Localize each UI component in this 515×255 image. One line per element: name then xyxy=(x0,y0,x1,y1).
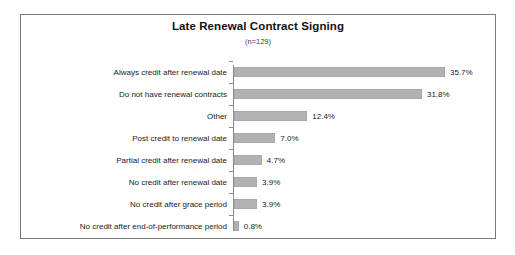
bar-value-label: 0.8% xyxy=(244,222,262,231)
bar-value-label: 3.9% xyxy=(262,178,280,187)
category-label: No credit after renewal date xyxy=(129,178,227,187)
axis-tick xyxy=(229,171,233,172)
bar-row: Partial credit after renewal date4.7% xyxy=(21,149,497,171)
bar-value-label: 31.8% xyxy=(427,90,450,99)
category-label: Always credit after renewal date xyxy=(114,68,227,77)
bar-value-label: 35.7% xyxy=(450,68,473,77)
bar-row: Post credit to renewal date7.0% xyxy=(21,127,497,149)
category-label: Other xyxy=(207,112,227,121)
axis-tick xyxy=(229,149,233,150)
axis-tick xyxy=(229,83,233,84)
bar xyxy=(234,177,257,187)
category-label: No credit after grace period xyxy=(130,200,227,209)
bar xyxy=(234,199,257,209)
category-label: Post credit to renewal date xyxy=(132,134,227,143)
axis-tick xyxy=(229,105,233,106)
bar-value-label: 3.9% xyxy=(262,200,280,209)
category-label: Do not have renewal contracts xyxy=(119,90,227,99)
bar xyxy=(234,111,307,121)
bar xyxy=(234,133,275,143)
bar xyxy=(234,155,262,165)
bar-value-label: 12.4% xyxy=(312,112,335,121)
bar-row: No credit after renewal date3.9% xyxy=(21,171,497,193)
bar-row: No credit after grace period3.9% xyxy=(21,193,497,215)
bar-row: Other12.4% xyxy=(21,105,497,127)
axis-tick xyxy=(229,61,233,62)
bar xyxy=(234,67,445,77)
bar-row: Always credit after renewal date35.7% xyxy=(21,61,497,83)
axis-tick xyxy=(229,215,233,216)
bar-value-label: 4.7% xyxy=(267,156,285,165)
plot-area: Always credit after renewal date35.7%Do … xyxy=(21,59,497,235)
category-label: Partial credit after renewal date xyxy=(116,156,227,165)
category-label: No credit after end-of-performance perio… xyxy=(80,222,227,231)
bar-value-label: 7.0% xyxy=(280,134,298,143)
axis-tick xyxy=(229,193,233,194)
bar-row: Do not have renewal contracts31.8% xyxy=(21,83,497,105)
chart-frame: Late Renewal Contract Signing (n=129) Al… xyxy=(20,14,496,239)
axis-tick xyxy=(229,127,233,128)
chart-title: Late Renewal Contract Signing xyxy=(21,20,495,32)
bar xyxy=(234,89,422,99)
bar xyxy=(234,221,239,231)
chart-subtitle: (n=129) xyxy=(21,37,495,46)
bar-row: No credit after end-of-performance perio… xyxy=(21,215,497,237)
